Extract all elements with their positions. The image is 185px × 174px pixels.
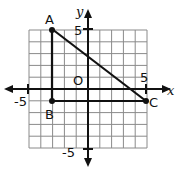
axis-label-y: y	[75, 4, 84, 19]
tick-label-y-pos: 5	[74, 23, 82, 38]
coordinate-plane: A B C O -5 5 5 -5 x y	[0, 0, 185, 174]
tick-label-x-pos: 5	[140, 70, 148, 85]
label-origin: O	[73, 73, 83, 88]
tick-label-y-neg: -5	[62, 145, 75, 160]
point-b	[49, 98, 55, 104]
label-point-c: C	[149, 95, 158, 110]
y-axis-down-arrow-icon	[84, 158, 92, 167]
y-axis-up-arrow-icon	[84, 9, 92, 18]
label-point-a: A	[45, 12, 54, 27]
point-a	[49, 27, 55, 33]
label-point-b: B	[45, 107, 54, 122]
axis-label-x: x	[167, 83, 175, 98]
tick-label-x-neg: -5	[14, 94, 27, 109]
x-axis-left-arrow-icon	[4, 85, 13, 93]
